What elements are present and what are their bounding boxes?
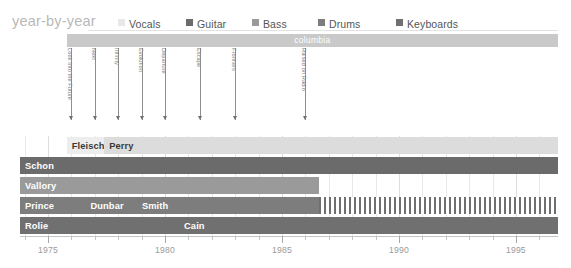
album-arrow-icon [233,116,237,120]
album-arrow-icon [116,116,120,120]
legend-swatch-icon [186,19,193,26]
album-title: Look Into the Future [67,48,73,100]
legend-label: Drums [329,18,360,30]
timeline-row-drums: PrinceDunbarSmith [0,197,571,214]
axis-tick-minor [422,236,423,240]
axis-tick-label: 1975 [38,245,58,255]
axis-line [20,236,558,237]
axis-tick-minor [95,236,96,240]
chart-header: year-by-year VocalsGuitarBassDrumsKeyboa… [0,0,571,30]
axis-tick-major [399,236,400,243]
axis-tick-major [48,236,49,243]
album-title: Raised on Radio [301,48,307,91]
member-name: Rolie [25,217,48,234]
timeline-row-guitar: TicknerSchon [0,157,571,174]
axis-tick-minor [212,236,213,240]
timeline-segment-cain[interactable]: Cain [179,217,558,234]
year-axis: 19751980198519901995 [0,236,571,268]
legend-swatch-icon [318,19,325,26]
axis-tick-minor [25,236,26,240]
album-title: Next [91,48,97,60]
album-title: Departure [161,48,167,74]
album-arrow-icon [163,116,167,120]
axis-tick-minor [539,236,540,240]
legend-label: Keyboards [407,18,458,30]
member-name: Dunbar [90,197,123,214]
timeline-segment-fleischman[interactable]: Fleischman [67,137,104,154]
timeline-row-vocals: FleischmanPerry [0,137,571,154]
axis-tick-minor [376,236,377,240]
legend-item-bass[interactable]: Bass [252,14,287,28]
axis-tick-major [516,236,517,243]
axis-tick-minor [188,236,189,240]
header-divider [88,30,558,31]
album-arrow-icon [303,116,307,120]
axis-tick-major [165,236,166,243]
timeline-segment-smith[interactable]: Smith [137,197,319,214]
legend-item-vocals[interactable]: Vocals [118,14,161,28]
axis-tick-minor [71,236,72,240]
album-title: Escape [196,48,202,67]
member-name: Cain [184,217,205,234]
album-title: Evolution [138,48,144,72]
legend-item-keyboards[interactable]: Keyboards [396,14,458,28]
axis-tick-minor [118,236,119,240]
member-name: Smith [142,197,168,214]
axis-tick-minor [235,236,236,240]
legend-item-drums[interactable]: Drums [318,14,360,28]
legend-swatch-icon [396,19,403,26]
album-arrow-icon [93,116,97,120]
axis-tick-minor [259,236,260,240]
axis-tick-major [282,236,283,243]
member-name: Perry [109,137,133,154]
timeline-body: FleischmanPerryTicknerSchonValloryPrince… [0,136,571,236]
record-label-name: columbia [67,34,558,47]
axis-tick-minor [446,236,447,240]
legend-label: Vocals [129,18,161,30]
legend-swatch-icon [118,19,125,26]
axis-tick-label: 1980 [155,245,175,255]
album-annotations: Look Into the FutureNextInfinityEvolutio… [0,48,571,138]
legend-swatch-icon [252,19,259,26]
legend-label: Guitar [197,18,226,30]
chart-canvas: year-by-year VocalsGuitarBassDrumsKeyboa… [0,0,571,268]
record-label-band: columbia [67,34,558,47]
timeline-segment-perry[interactable]: Perry [104,137,558,154]
timeline-segment-rolie[interactable]: Rolie [20,217,179,234]
timeline-segment-dunbar[interactable]: Dunbar [85,197,136,214]
axis-tick-minor [329,236,330,240]
axis-tick-minor [493,236,494,240]
member-name: Fleischman [72,137,104,154]
timeline-row-keyboards: RolieCain [0,217,571,234]
axis-tick-label: 1995 [506,245,526,255]
album-arrow-icon [198,116,202,120]
axis-tick-label: 1990 [389,245,409,255]
axis-tick-minor [142,236,143,240]
timeline-row-bass: Vallory [0,177,571,194]
page-title: year-by-year [12,13,96,29]
album-title: Frontiers [231,48,237,71]
axis-tick-minor [469,236,470,240]
album-arrow-icon [69,116,73,120]
member-name: Prince [25,197,54,214]
album-title: Infinity [114,48,120,65]
axis-tick-label: 1985 [272,245,292,255]
timeline-segment-vallory[interactable]: Vallory [20,177,319,194]
legend-label: Bass [263,18,287,30]
timeline-segment-schon[interactable]: Schon [20,157,558,174]
member-name: Vallory [25,177,56,194]
timeline-segment-intermittent[interactable] [319,197,558,214]
legend-item-guitar[interactable]: Guitar [186,14,226,28]
timeline-segment-prince[interactable]: Prince [20,197,85,214]
album-arrow-icon [140,116,144,120]
axis-tick-minor [305,236,306,240]
member-name: Schon [25,157,54,174]
axis-tick-minor [352,236,353,240]
